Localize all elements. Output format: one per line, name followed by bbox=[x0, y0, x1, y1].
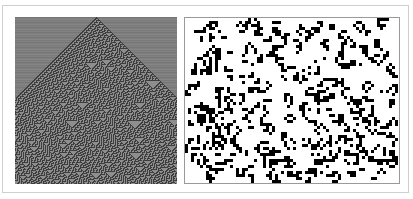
ca-1d-canvas bbox=[15, 17, 177, 184]
ca-1d-panel bbox=[15, 17, 177, 184]
ca-2d-canvas bbox=[185, 18, 399, 183]
ca-2d-panel bbox=[184, 17, 400, 184]
